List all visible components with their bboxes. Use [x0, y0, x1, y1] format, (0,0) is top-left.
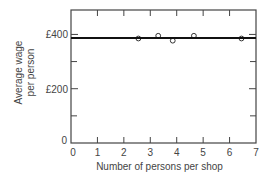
x-tick-label: 1 [95, 147, 101, 158]
x-tick-label: 4 [174, 147, 180, 158]
x-tick-label: 2 [121, 147, 127, 158]
plot-frame [71, 10, 256, 143]
y-axis-title: Average wageper person [13, 40, 36, 104]
y-axis-title-line: Average wage [13, 40, 24, 104]
x-tick-label: 5 [200, 147, 206, 158]
x-axis-title: Number of persons per shop [96, 161, 223, 172]
scatter-chart: 012345670£200£400 Number of persons per … [0, 0, 268, 183]
data-point [170, 38, 175, 43]
y-axis-title-line: per person [25, 49, 36, 97]
x-tick-label: 7 [253, 147, 259, 158]
y-tick-label: £200 [46, 84, 69, 95]
y-tick-label: 0 [61, 135, 67, 146]
x-tick-label: 0 [70, 147, 76, 158]
axis-ticks: 012345670£200£400 [46, 10, 259, 158]
axis-labels: Number of persons per shopAverage wagepe… [13, 40, 223, 172]
plot-border [71, 10, 256, 143]
x-tick-label: 6 [227, 147, 233, 158]
x-tick-label: 3 [148, 147, 154, 158]
data-series [71, 33, 256, 43]
y-tick-label: £400 [46, 29, 69, 40]
